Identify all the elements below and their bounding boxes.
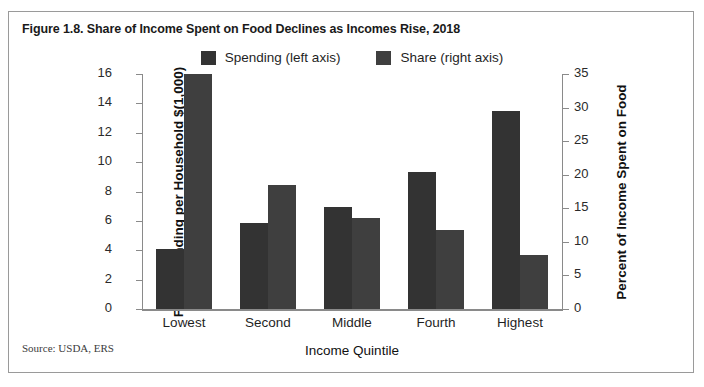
y-axis-right-tick-mark — [563, 74, 569, 75]
y-axis-left-tick-label: 12 — [82, 124, 112, 139]
bar-spending — [408, 172, 436, 309]
source-note: Source: USDA, ERS — [22, 342, 114, 354]
x-axis-category-label: Second — [226, 315, 310, 330]
y-axis-left-tick-label: 10 — [82, 153, 112, 168]
bar-group — [240, 74, 296, 309]
bar-share — [268, 185, 296, 309]
y-axis-right-tick-label: 25 — [574, 132, 604, 147]
y-axis-left-tick-label: 6 — [82, 212, 112, 227]
bar-group — [492, 74, 548, 309]
y-axis-right-tick-mark — [563, 175, 569, 176]
y-axis-right-tick-label: 5 — [574, 266, 604, 281]
y-axis-right-tick-mark — [563, 141, 569, 142]
y-axis-right-tick-mark — [563, 208, 569, 209]
x-axis-title: Income Quintile — [142, 343, 562, 358]
y-axis-right-tick-label: 30 — [574, 99, 604, 114]
figure-card: Figure 1.8. Share of Income Spent on Foo… — [8, 11, 694, 373]
y-axis-left-tick-label: 0 — [82, 300, 112, 315]
y-axis-right-tick-mark — [563, 108, 569, 109]
bar-spending — [492, 111, 520, 309]
y-axis-right-tick-label: 20 — [574, 166, 604, 181]
chart-plot-area: Food Spending per Household $(1,000) Per… — [9, 12, 695, 374]
y-axis-left-tick-mark — [136, 309, 142, 310]
y-axis-right-tick-mark — [563, 275, 569, 276]
y-axis-left-tick-label: 14 — [82, 94, 112, 109]
y-axis-right-tick-label: 0 — [574, 300, 604, 315]
bar-share — [184, 74, 212, 309]
x-axis-category-label: Middle — [310, 315, 394, 330]
x-axis-line — [142, 309, 563, 311]
y-axis-right-tick-label: 35 — [574, 65, 604, 80]
bar-spending — [156, 249, 184, 309]
bar-spending — [240, 223, 268, 309]
bar-share — [520, 255, 548, 309]
bar-group — [156, 74, 212, 309]
y-axis-left-tick-label: 4 — [82, 241, 112, 256]
x-axis-category-label: Fourth — [394, 315, 478, 330]
x-axis-category-label: Lowest — [142, 315, 226, 330]
y-axis-left-tick-label: 8 — [82, 183, 112, 198]
y-axis-right-tick-mark — [563, 309, 569, 310]
bar-spending — [324, 207, 352, 309]
y-axis-right-title: Percent of Income Spent on Food — [614, 70, 629, 314]
y-axis-right-tick-mark — [563, 242, 569, 243]
y-axis-right-tick-label: 10 — [574, 233, 604, 248]
bar-group — [324, 74, 380, 309]
y-axis-right-title-wrap: Percent of Income Spent on Food — [609, 74, 633, 309]
y-axis-left-tick-label: 16 — [82, 65, 112, 80]
y-axis-left-tick-label: 2 — [82, 271, 112, 286]
bar-share — [436, 230, 464, 309]
bars-container — [142, 74, 562, 309]
x-axis-category-label: Highest — [478, 315, 562, 330]
bar-share — [352, 218, 380, 309]
y-axis-right-tick-label: 15 — [574, 199, 604, 214]
bar-group — [408, 74, 464, 309]
